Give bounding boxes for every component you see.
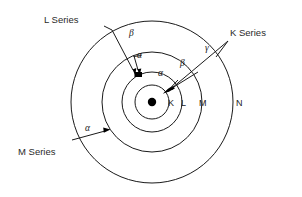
atom-shell-diagram: K L M N L Series K Series M Series β α γ… (0, 0, 302, 197)
k-series-alpha-label: α (158, 68, 164, 78)
k-series-gamma-label: γ (205, 43, 209, 53)
l-series-alpha-label: α (137, 50, 143, 60)
m-series-alpha-label: α (85, 123, 91, 133)
k-series-beta-label: β (179, 58, 185, 68)
series-label-k: K Series (230, 27, 266, 38)
series-label-l: L Series (44, 14, 79, 25)
nucleus-dot (148, 98, 156, 106)
shell-label-n: N (236, 98, 243, 108)
l-series-label-leader (104, 26, 112, 30)
series-label-m: M Series (18, 146, 56, 157)
shell-label-l: L (181, 98, 186, 108)
shell-label-k: K (168, 98, 174, 108)
l-series-arrow-bundle-tick (135, 72, 143, 77)
diagram-canvas: K L M N L Series K Series M Series β α γ… (0, 0, 302, 197)
l-series-beta-label: β (128, 28, 134, 38)
k-series-beta-arrow-line (171, 72, 199, 89)
shell-label-m: M (199, 98, 207, 108)
